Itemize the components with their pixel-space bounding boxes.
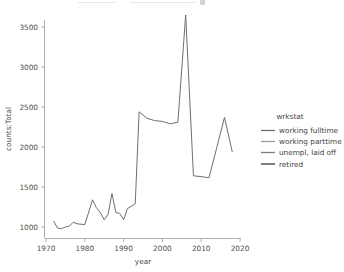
y-axis-ticks [41, 27, 45, 227]
y-tick-label: 2000 [19, 143, 38, 152]
y-tick-label: 3000 [19, 63, 38, 72]
legend-item-retired[interactable]: retired [261, 160, 303, 169]
x-tick-label: 2010 [192, 244, 211, 253]
legend-item-unempl-laid-off[interactable]: unempl, laid off [261, 148, 337, 157]
legend-item-working-fulltime[interactable]: working fulltime [261, 126, 339, 135]
x-axis-ticks [46, 239, 240, 243]
legend: wrkstat working fulltime working parttim… [261, 112, 342, 169]
chart-screenshot: 1000 1500 2000 2500 3000 3500 1970 1980 … [0, 0, 344, 272]
x-axis-title: year [135, 257, 151, 266]
legend-item-label: working parttime [279, 137, 342, 146]
line-chart: 1000 1500 2000 2500 3000 3500 1970 1980 … [0, 0, 344, 272]
y-tick-label: 3500 [19, 23, 38, 32]
legend-item-label: retired [279, 160, 303, 169]
x-tick-label: 1990 [114, 244, 133, 253]
y-axis-tick-labels: 1000 1500 2000 2500 3000 3500 [19, 23, 38, 232]
legend-item-label: working fulltime [279, 126, 339, 135]
x-tick-label: 1980 [76, 244, 95, 253]
y-axis-title: counts:Total [4, 107, 13, 151]
x-tick-label: 2020 [231, 244, 250, 253]
y-tick-label: 2500 [19, 103, 38, 112]
legend-title: wrkstat [276, 112, 303, 121]
x-tick-label: 2000 [153, 244, 172, 253]
y-tick-label: 1000 [19, 223, 38, 232]
x-axis-tick-labels: 1970 1980 1990 2000 2010 2020 [37, 244, 250, 253]
series-line-working-fulltime [54, 15, 232, 229]
legend-item-working-parttime[interactable]: working parttime [261, 137, 342, 146]
legend-item-label: unempl, laid off [279, 148, 337, 157]
y-tick-label: 1500 [19, 183, 38, 192]
x-tick-label: 1970 [37, 244, 56, 253]
